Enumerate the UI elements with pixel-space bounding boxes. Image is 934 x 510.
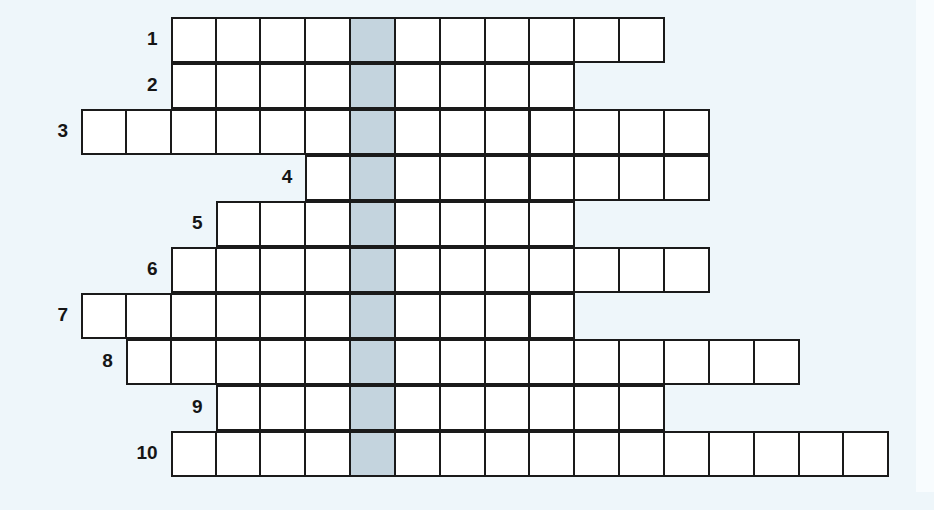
crossword-cell[interactable] [708,431,755,477]
crossword-cell[interactable] [573,339,620,385]
crossword-cell[interactable] [439,431,486,477]
crossword-cell[interactable] [484,385,531,431]
crossword-cell[interactable] [618,155,665,201]
crossword-cell[interactable] [663,109,710,155]
crossword-cell[interactable] [259,247,306,293]
crossword-cell[interactable] [529,155,576,201]
crossword-cell[interactable] [529,109,576,155]
crossword-cell[interactable] [170,109,217,155]
crossword-cell[interactable] [125,109,172,155]
crossword-cell[interactable] [305,155,352,201]
crossword-cell[interactable] [439,385,486,431]
crossword-cell[interactable] [439,109,486,155]
crossword-cell-keyword[interactable] [349,385,396,431]
crossword-cell[interactable] [753,431,800,477]
crossword-cell[interactable] [215,431,262,477]
crossword-cell[interactable] [484,155,531,201]
crossword-cell[interactable] [304,109,351,155]
crossword-cell-keyword[interactable] [349,63,396,109]
crossword-cell[interactable] [484,63,531,109]
crossword-cell[interactable] [259,431,306,477]
crossword-cell[interactable] [618,17,665,63]
crossword-cell[interactable] [439,201,486,247]
crossword-cell[interactable] [484,17,531,63]
crossword-cell[interactable] [439,339,486,385]
crossword-cell-keyword[interactable] [349,339,396,385]
crossword-cell[interactable] [171,17,218,63]
crossword-cell[interactable] [439,63,486,109]
crossword-cell[interactable] [394,109,441,155]
crossword-cell[interactable] [215,339,262,385]
crossword-cell[interactable] [259,385,306,431]
crossword-cell[interactable] [394,247,441,293]
crossword-cell-keyword[interactable] [349,247,396,293]
crossword-cell-keyword[interactable] [349,293,396,339]
crossword-cell[interactable] [170,339,217,385]
crossword-cell[interactable] [528,247,575,293]
crossword-cell[interactable] [304,339,351,385]
crossword-cell[interactable] [528,17,575,63]
crossword-cell[interactable] [304,201,351,247]
crossword-cell[interactable] [573,247,620,293]
crossword-cell[interactable] [215,109,262,155]
crossword-cell-keyword[interactable] [349,201,396,247]
crossword-cell[interactable] [484,431,531,477]
crossword-cell[interactable] [259,63,306,109]
crossword-cell[interactable] [394,155,441,201]
crossword-cell[interactable] [484,339,531,385]
crossword-cell[interactable] [484,247,531,293]
crossword-cell[interactable] [618,247,665,293]
crossword-cell[interactable] [573,155,620,201]
crossword-cell[interactable] [484,201,531,247]
crossword-cell[interactable] [663,155,710,201]
crossword-cell[interactable] [528,63,575,109]
crossword-cell[interactable] [528,201,575,247]
crossword-cell-keyword[interactable] [349,431,396,477]
crossword-cell[interactable] [394,17,441,63]
crossword-cell[interactable] [573,109,620,155]
crossword-cell[interactable] [573,17,620,63]
crossword-cell[interactable] [304,63,351,109]
crossword-cell[interactable] [304,431,351,477]
crossword-cell[interactable] [81,293,128,339]
crossword-cell[interactable] [439,247,486,293]
crossword-cell[interactable] [304,17,351,63]
crossword-cell[interactable] [529,293,576,339]
crossword-cell[interactable] [484,109,531,155]
crossword-cell[interactable] [81,109,128,155]
crossword-cell[interactable] [259,109,306,155]
crossword-cell[interactable] [439,293,486,339]
crossword-cell[interactable] [618,431,665,477]
crossword-cell[interactable] [216,385,263,431]
crossword-cell[interactable] [394,385,441,431]
crossword-cell[interactable] [171,431,218,477]
crossword-cell[interactable] [394,293,441,339]
crossword-cell[interactable] [304,385,351,431]
crossword-cell[interactable] [215,63,262,109]
crossword-cell[interactable] [573,385,620,431]
crossword-cell[interactable] [439,17,486,63]
crossword-cell-keyword[interactable] [349,17,396,63]
crossword-cell[interactable] [528,385,575,431]
crossword-cell[interactable] [215,293,262,339]
crossword-cell[interactable] [528,431,575,477]
crossword-cell[interactable] [126,339,173,385]
crossword-cell[interactable] [171,247,218,293]
crossword-cell[interactable] [304,293,351,339]
crossword-cell[interactable] [798,431,845,477]
crossword-cell[interactable] [215,247,262,293]
crossword-cell[interactable] [259,17,306,63]
crossword-cell[interactable] [394,201,441,247]
crossword-cell[interactable] [259,293,306,339]
crossword-cell[interactable] [618,109,665,155]
crossword-cell[interactable] [484,293,531,339]
crossword-cell[interactable] [170,293,217,339]
crossword-cell[interactable] [394,63,441,109]
crossword-cell[interactable] [618,339,665,385]
crossword-cell-keyword[interactable] [349,155,396,201]
crossword-cell[interactable] [259,201,306,247]
crossword-cell[interactable] [304,247,351,293]
crossword-cell[interactable] [394,339,441,385]
crossword-cell[interactable] [842,431,889,477]
crossword-cell[interactable] [618,385,665,431]
